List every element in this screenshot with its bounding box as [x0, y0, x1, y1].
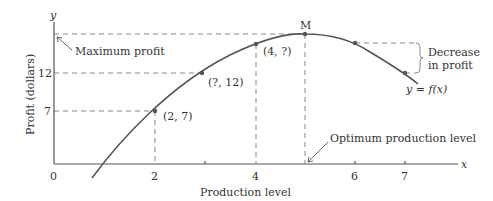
y-tick-label-12: 12	[38, 67, 52, 80]
point-4-q	[254, 42, 258, 46]
point-x6	[353, 41, 357, 45]
x-tick-label-7: 7	[401, 170, 408, 183]
point-label-q-12: (?, 12)	[208, 76, 243, 89]
point-x7	[403, 71, 407, 75]
decrease-annotation-line2: in profit	[428, 59, 473, 72]
max-profit-arrow-icon	[57, 37, 72, 50]
x-axis-title: Production level	[200, 186, 291, 199]
point-max-m	[303, 32, 307, 36]
y-var-label: y	[49, 9, 57, 22]
optimum-annotation: Optimum production level	[330, 132, 477, 145]
profit-function-diagram: y x 0 2 4 6 7 12 7 Production level Prof…	[0, 0, 493, 201]
optimum-arrow-icon	[308, 142, 328, 162]
x-tick-label-6: 6	[351, 170, 358, 183]
peak-label-m: M	[300, 19, 311, 32]
point-q-12	[200, 71, 204, 75]
point-2-7	[153, 109, 157, 113]
max-profit-annotation: Maximum profit	[75, 45, 165, 58]
point-label-2-7: (2, 7)	[163, 110, 193, 123]
decrease-brace-icon	[416, 43, 423, 73]
x-tick-label-2: 2	[151, 170, 158, 183]
y-tick-label-7: 7	[44, 105, 51, 118]
x-var-label: x	[461, 158, 468, 171]
point-label-4-q: (4, ?)	[263, 45, 291, 58]
y-axis-title: Profit (dollars)	[24, 54, 37, 135]
x-tick-label-4: 4	[252, 170, 259, 183]
origin-label: 0	[50, 170, 57, 183]
decrease-annotation-line1: Decrease	[428, 46, 480, 59]
curve-label: y = f(x)	[405, 83, 447, 96]
